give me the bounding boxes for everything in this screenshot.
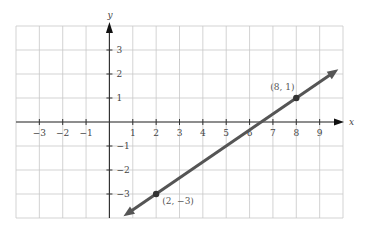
data-point-label: (2, −3) bbox=[162, 196, 194, 206]
x-axis-arrow-icon bbox=[334, 119, 344, 126]
x-tick-label: 5 bbox=[223, 128, 229, 138]
x-tick-label: −2 bbox=[56, 128, 69, 138]
data-point bbox=[153, 191, 159, 197]
x-tick-label: 9 bbox=[317, 128, 323, 138]
y-tick-label: −3 bbox=[116, 189, 130, 199]
y-tick-label: −2 bbox=[116, 165, 129, 175]
x-axis-label: x bbox=[349, 117, 354, 127]
y-tick-label: 1 bbox=[116, 93, 122, 103]
coordinate-plane: −3−2−1123456789321−1−2−3 (2, −3)(8, 1) x… bbox=[0, 0, 368, 230]
y-tick-label: 3 bbox=[116, 45, 122, 55]
y-tick-label: 2 bbox=[116, 69, 122, 79]
graph-line bbox=[130, 74, 332, 212]
x-tick-label: −3 bbox=[33, 128, 47, 138]
data-point bbox=[293, 95, 299, 101]
y-axis-label: y bbox=[106, 10, 113, 20]
x-tick-label: 3 bbox=[177, 128, 183, 138]
x-tick-label: 1 bbox=[130, 128, 136, 138]
x-tick-label: −1 bbox=[79, 128, 92, 138]
y-tick-label: −1 bbox=[116, 141, 129, 151]
y-axis-arrow-icon bbox=[106, 22, 113, 33]
data-point-label: (8, 1) bbox=[270, 82, 294, 92]
x-tick-label: 4 bbox=[200, 128, 206, 138]
x-tick-label: 8 bbox=[293, 128, 299, 138]
x-tick-label: 7 bbox=[270, 128, 276, 138]
x-tick-label: 2 bbox=[153, 128, 159, 138]
